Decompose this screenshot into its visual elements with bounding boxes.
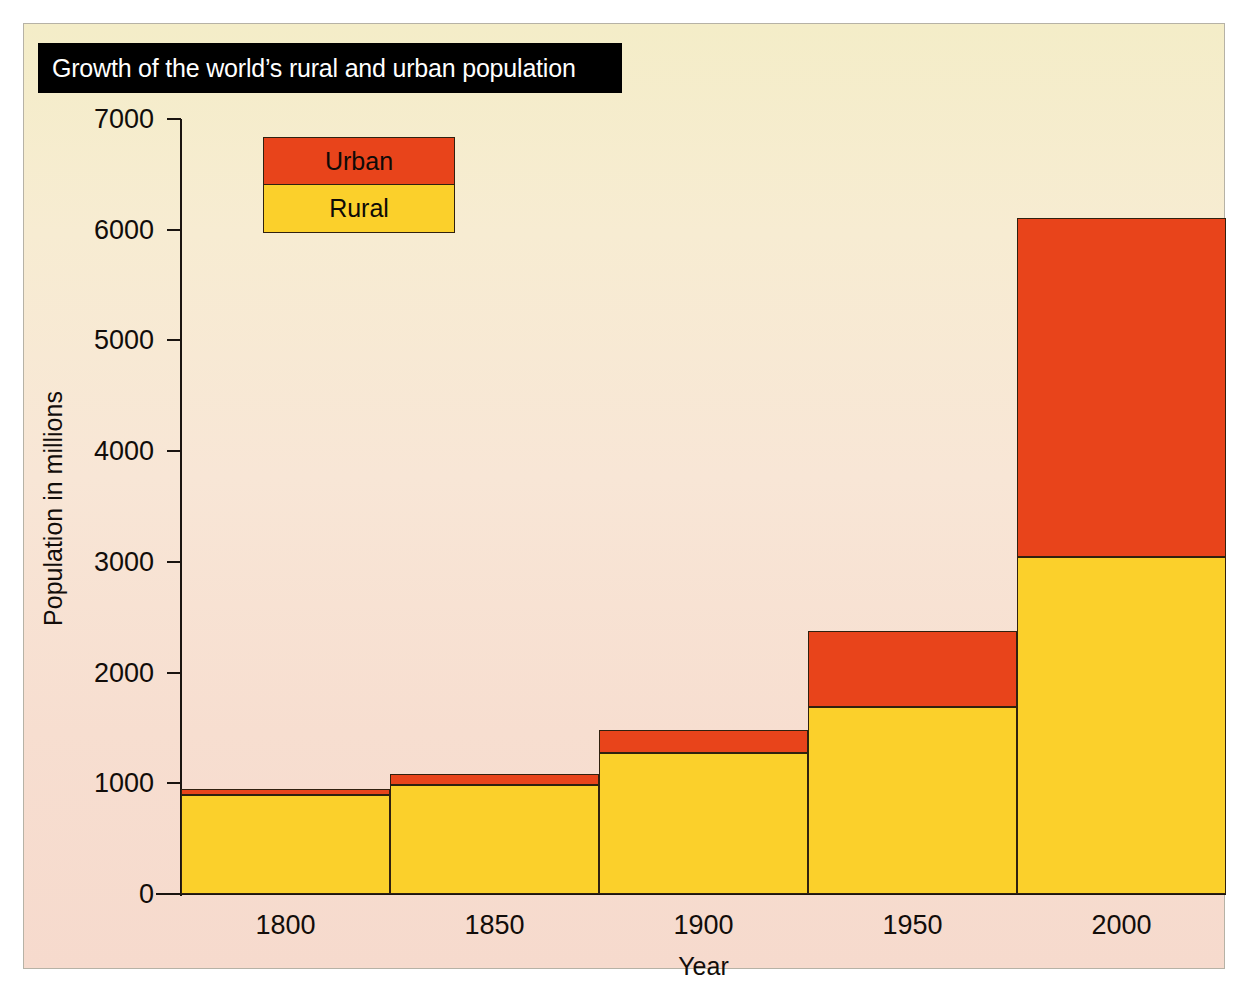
y-tick-mark (167, 672, 181, 674)
bar-segment-urban[interactable] (1017, 218, 1226, 557)
chart-panel: Growth of the world’s rural and urban po… (23, 23, 1225, 969)
bar-segment-rural[interactable] (390, 785, 599, 894)
chart-legend: Urban Rural (263, 137, 455, 233)
x-tick-label: 2000 (1017, 910, 1226, 941)
bar-segment-urban[interactable] (599, 730, 808, 753)
legend-label-urban: Urban (325, 147, 393, 176)
bar-segment-rural[interactable] (181, 795, 390, 894)
y-tick-mark (167, 450, 181, 452)
y-tick-mark (167, 561, 181, 563)
y-tick-label: 1000 (94, 768, 154, 799)
y-tick-label: 6000 (94, 214, 154, 245)
y-tick-label: 4000 (94, 436, 154, 467)
y-tick-label: 3000 (94, 546, 154, 577)
bar-segment-rural[interactable] (808, 707, 1017, 894)
y-tick-mark (167, 229, 181, 231)
legend-item-rural: Rural (264, 185, 454, 232)
y-tick-mark (167, 118, 181, 120)
bar-segment-urban[interactable] (181, 789, 390, 795)
x-tick-label: 1850 (390, 910, 599, 941)
y-tick-label: 2000 (94, 657, 154, 688)
x-tick-label: 1900 (599, 910, 808, 941)
x-tick-label: 1800 (181, 910, 390, 941)
y-tick-label: 7000 (94, 104, 154, 135)
bar-group (181, 119, 1226, 894)
chart-figure: Growth of the world’s rural and urban po… (0, 0, 1248, 994)
y-tick-mark (167, 782, 181, 784)
legend-label-rural: Rural (329, 194, 389, 223)
bar-segment-urban[interactable] (808, 631, 1017, 707)
x-axis-title: Year (181, 952, 1226, 981)
legend-item-urban: Urban (264, 138, 454, 185)
y-axis-title: Population in millions (39, 294, 68, 724)
y-tick-mark (167, 893, 181, 895)
x-tick-label: 1950 (808, 910, 1017, 941)
bar-segment-rural[interactable] (599, 753, 808, 894)
y-tick-mark (167, 339, 181, 341)
bar-segment-urban[interactable] (390, 774, 599, 785)
y-tick-label: 5000 (94, 325, 154, 356)
y-tick-label: 0 (139, 879, 154, 910)
plot-area: 01000200030004000500060007000 1800185019… (24, 24, 1226, 970)
bar-segment-rural[interactable] (1017, 557, 1226, 894)
